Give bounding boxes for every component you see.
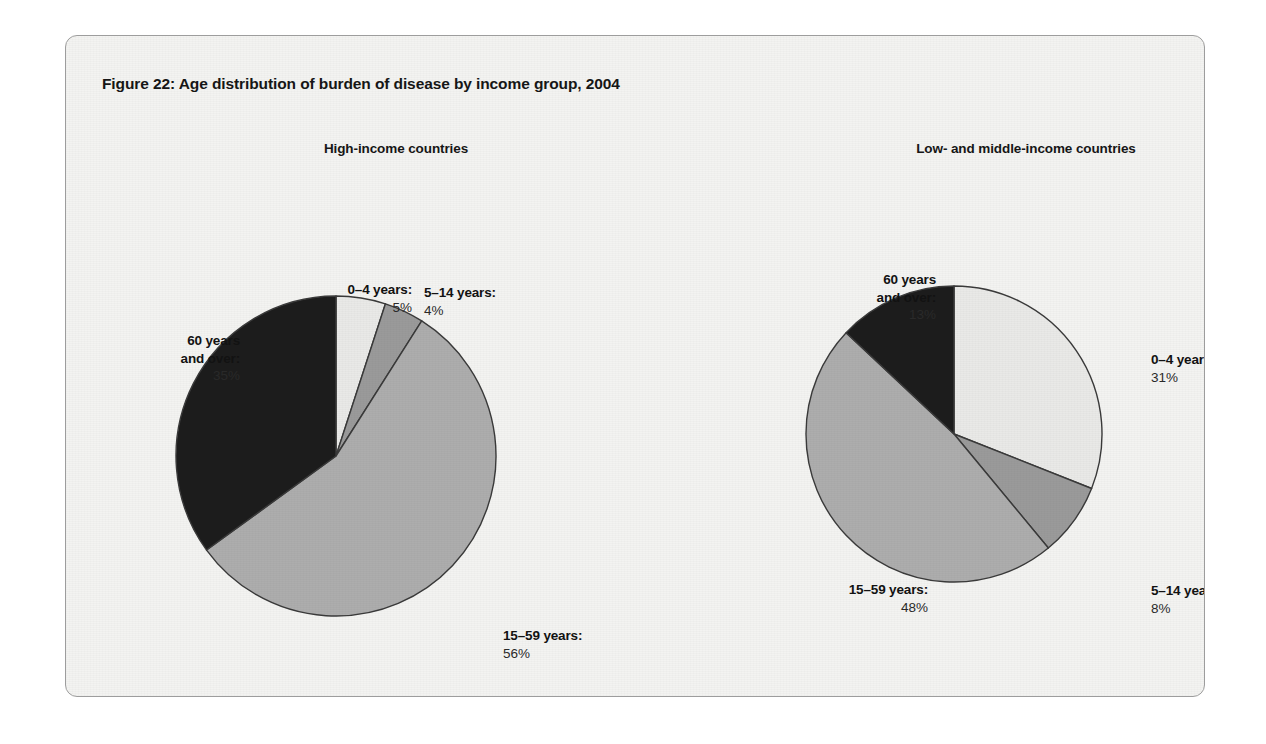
callout-left-age-5-14: 5–14 years: 4% — [424, 284, 574, 319]
callout-right-age-60-over-percent: 13% — [766, 306, 936, 324]
callout-right-age-15-59-percent: 48% — [746, 599, 928, 617]
callout-right-age-0-4-percent: 31% — [1151, 369, 1205, 387]
callout-left-age-0-4: 0–4 years: 5% — [262, 281, 412, 316]
callout-right-age-15-59-category: 15–59 years: — [746, 581, 928, 599]
callout-left-age-60-over-percent: 35% — [66, 367, 240, 385]
pie-slices-low-middle-income — [806, 286, 1102, 582]
panel-title-high-income: High-income countries — [196, 141, 596, 156]
callout-right-age-15-59: 15–59 years: 48% — [746, 581, 928, 616]
figure-title: Figure 22: Age distribution of burden of… — [102, 75, 620, 93]
callout-left-age-15-59-percent: 56% — [503, 645, 693, 663]
callout-right-age-5-14-percent: 8% — [1151, 600, 1205, 618]
callout-right-age-5-14-category: 5–14 years: — [1151, 582, 1205, 600]
callout-left-age-60-over: 60 years and over: 35% — [66, 332, 240, 385]
callout-left-age-15-59: 15–59 years: 56% — [503, 627, 693, 662]
callout-left-age-5-14-percent: 4% — [424, 302, 574, 320]
panel-title-low-middle-income: Low- and middle-income countries — [806, 141, 1205, 156]
callout-left-age-0-4-category: 0–4 years: — [262, 281, 412, 299]
callout-left-age-60-over-category-line2: and over: — [66, 350, 240, 368]
callout-right-age-60-over: 60 years and over: 13% — [766, 271, 936, 324]
callout-right-age-0-4: 0–4 years: 31% — [1151, 351, 1205, 386]
pie-chart-low-middle-income — [801, 281, 1107, 587]
callout-right-age-0-4-category: 0–4 years: — [1151, 351, 1205, 369]
callout-right-age-60-over-category-line1: 60 years — [766, 271, 936, 289]
callout-left-age-5-14-category: 5–14 years: — [424, 284, 574, 302]
callout-right-age-5-14: 5–14 years: 8% — [1151, 582, 1205, 617]
callout-right-age-60-over-category-line2: and over: — [766, 289, 936, 307]
callout-left-age-15-59-category: 15–59 years: — [503, 627, 693, 645]
callout-left-age-60-over-category-line1: 60 years — [66, 332, 240, 350]
figure-container: Figure 22: Age distribution of burden of… — [65, 35, 1205, 697]
callout-left-age-0-4-percent: 5% — [262, 299, 412, 317]
